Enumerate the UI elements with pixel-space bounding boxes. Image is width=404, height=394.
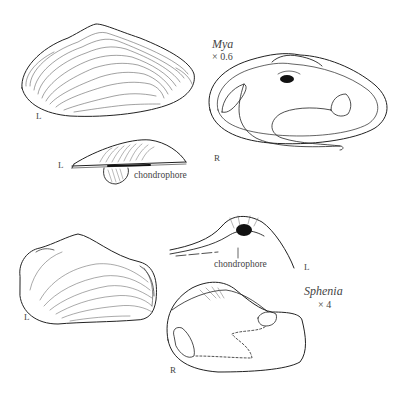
mya-interior-valve-drawing (209, 54, 387, 150)
sphenia-genus-label: Sphenia (304, 285, 343, 297)
mya-interior-side-label: R (214, 154, 220, 163)
bivalve-illustration-plate: Mya × 0.6 L R L chondrophore L chondroph… (0, 0, 404, 394)
mya-external-side-label: L (36, 112, 42, 121)
sphenia-scale-label: × 4 (318, 300, 331, 310)
sphenia-external-valve-drawing (20, 234, 157, 324)
sphenia-chondrophore-label: chondrophore (214, 260, 267, 270)
sphenia-interior-valve-drawing (167, 282, 306, 372)
line-drawings (0, 0, 404, 394)
sphenia-interior-side-label: R (170, 366, 176, 375)
mya-chondrophore-label: chondrophore (134, 171, 187, 181)
sphenia-external-side-label: L (24, 313, 30, 322)
mya-external-valve-drawing (22, 24, 195, 116)
mya-genus-label: Mya (212, 38, 233, 50)
mya-scale-label: × 0.6 (212, 52, 233, 62)
sphenia-hinge-side-label: L (304, 263, 310, 272)
mya-hinge-side-label: L (58, 161, 64, 170)
